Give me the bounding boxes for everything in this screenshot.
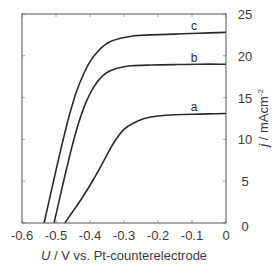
- axis-ticks: [22, 14, 226, 223]
- curves: [44, 32, 226, 223]
- jv-curve-chart: -0.6-0.5-0.4-0.3-0.2-0.10 0510152025 abc…: [0, 0, 278, 270]
- curve-label-c: c: [191, 19, 197, 33]
- x-tick-label: -0.2: [147, 228, 169, 243]
- y-tick-label: 0: [241, 219, 248, 234]
- y-tick-label: 20: [238, 49, 252, 64]
- x-axis-label: U / V vs. Pt-counterelectrode: [41, 248, 207, 263]
- y-tick-label: 15: [238, 91, 252, 106]
- curve-b: [54, 64, 226, 223]
- plot-frame: [22, 14, 226, 223]
- y-tick-label: 5: [241, 174, 248, 189]
- x-tick-label: -0.1: [181, 228, 203, 243]
- x-tick-label: -0.6: [11, 228, 33, 243]
- curve-label-b: b: [191, 51, 198, 65]
- curve-a: [65, 114, 226, 224]
- x-tick-labels: -0.6-0.5-0.4-0.3-0.2-0.10: [11, 228, 230, 243]
- curve-c: [44, 32, 226, 223]
- x-tick-label: -0.4: [79, 228, 101, 243]
- x-tick-label: -0.3: [113, 228, 135, 243]
- x-tick-label: 0: [222, 228, 229, 243]
- y-tick-label: 10: [238, 132, 252, 147]
- y-tick-label: 25: [238, 7, 252, 22]
- x-tick-label: -0.5: [45, 228, 67, 243]
- y-axis-label: j / mAcm-2: [256, 89, 271, 149]
- curve-label-a: a: [191, 100, 198, 114]
- y-tick-labels: 0510152025: [238, 7, 252, 234]
